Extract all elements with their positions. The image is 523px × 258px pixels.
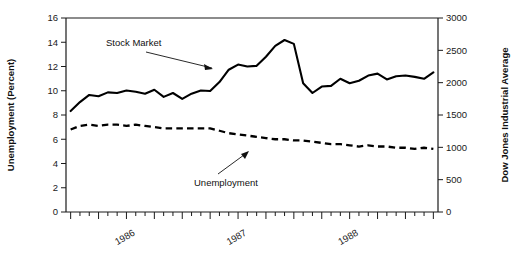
series-line-stock-market [71, 40, 434, 111]
left-tick-label: 4 [53, 158, 58, 169]
left-tick-label: 16 [47, 12, 58, 23]
annotation-unemployment: Unemployment [194, 151, 258, 188]
annotation-stock-market: Stock Market [106, 37, 213, 70]
right-tick-label: 2500 [446, 45, 467, 56]
x-axis-year-label: 1986 [113, 227, 137, 247]
left-tick-label: 12 [47, 61, 58, 72]
annotation-unemployment-arrowhead [241, 151, 249, 159]
series-line-unemployment [71, 125, 434, 149]
left-axis-tick-labels: 0246810121416 [47, 12, 58, 217]
left-tick-label: 8 [53, 109, 58, 120]
left-axis-title: Unemployment (Percent) [5, 59, 16, 171]
left-axis-ticks [61, 18, 66, 212]
right-tick-label: 3000 [446, 12, 467, 23]
right-tick-label: 1000 [446, 142, 467, 153]
annotation-stock-market-arrowhead [204, 64, 213, 70]
left-tick-label: 2 [53, 182, 58, 193]
chart-container: 0246810121416 050010001500200025003000 1… [0, 0, 523, 258]
x-axis-year-label: 1987 [224, 227, 248, 247]
left-tick-label: 10 [47, 85, 58, 96]
right-axis-ticks [438, 18, 443, 212]
left-tick-label: 14 [47, 37, 58, 48]
left-tick-label: 6 [53, 134, 58, 145]
left-tick-label: 0 [53, 206, 58, 217]
right-tick-label: 0 [446, 206, 451, 217]
annotation-unemployment-label: Unemployment [194, 177, 258, 188]
right-axis-title: Dow Jones Industrial Average [499, 48, 510, 183]
x-axis-month-ticks [71, 212, 434, 219]
unemployment-dow-jones-line-chart: 0246810121416 050010001500200025003000 1… [0, 0, 523, 258]
right-tick-label: 2000 [446, 77, 467, 88]
right-tick-label: 1500 [446, 109, 467, 120]
annotation-stock-market-label: Stock Market [106, 37, 162, 48]
right-tick-label: 500 [446, 174, 462, 185]
x-axis-year-label: 1988 [336, 227, 360, 247]
x-axis-year-labels: 198619871988 [113, 227, 360, 247]
annotation-stock-market-leader [146, 52, 212, 68]
right-axis-tick-labels: 050010001500200025003000 [446, 12, 467, 217]
